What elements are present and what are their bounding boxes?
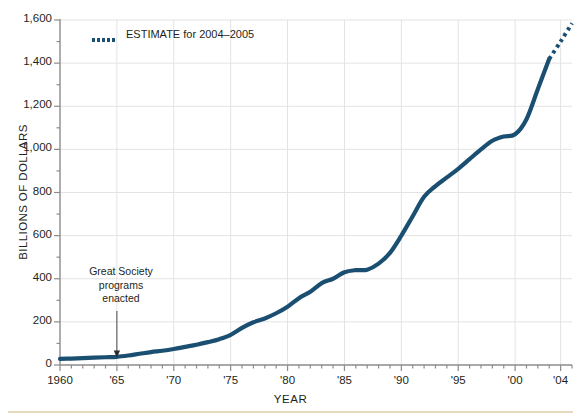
line-chart-canvas (0, 0, 581, 420)
y-tick-label: 1,400 (6, 55, 52, 67)
dotted-line-swatch-icon (92, 32, 118, 36)
x-tick-label: '95 (435, 374, 481, 386)
annotation-line-2: programs (76, 279, 166, 293)
legend: ESTIMATE for 2004–2005 (92, 28, 254, 40)
bottom-divider-rule (8, 411, 573, 413)
y-tick-label: 200 (6, 314, 52, 326)
y-tick-label: 600 (6, 228, 52, 240)
x-tick-label: '04 (538, 374, 581, 386)
y-tick-label: 400 (6, 271, 52, 283)
y-tick-label: 1,600 (6, 12, 52, 24)
annotation-line-3: enacted (76, 292, 166, 306)
y-tick-label: 1,200 (6, 98, 52, 110)
annotation-great-society: Great Society programs enacted (76, 265, 166, 306)
y-tick-label: 0 (6, 357, 52, 369)
x-tick-label: '85 (321, 374, 367, 386)
x-axis-title: YEAR (0, 393, 581, 405)
x-tick-label: '70 (151, 374, 197, 386)
x-tick-label: '90 (378, 374, 424, 386)
series-line-actual (60, 59, 549, 359)
x-tick-label: '80 (265, 374, 311, 386)
x-tick-label: '75 (208, 374, 254, 386)
y-tick-label: 1,000 (6, 141, 52, 153)
annotation-line-1: Great Society (76, 265, 166, 279)
chart-figure: BILLIONS OF DOLLARS YEAR 1,6001,4001,200… (0, 0, 581, 420)
legend-label-estimate: ESTIMATE for 2004–2005 (126, 28, 254, 40)
x-tick-label: 1960 (37, 374, 83, 386)
x-tick-label: '65 (94, 374, 140, 386)
y-tick-label: 800 (6, 185, 52, 197)
x-tick-label: '00 (492, 374, 538, 386)
